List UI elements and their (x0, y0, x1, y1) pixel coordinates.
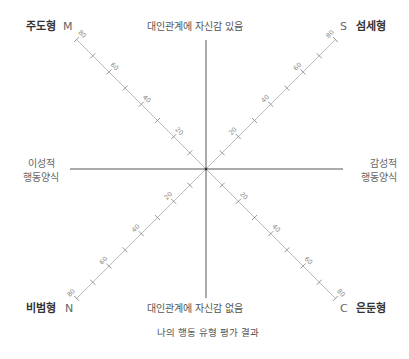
axis-label-top: 대인관계에 자신감 있음 (147, 20, 243, 33)
center-point (205, 168, 208, 171)
type-letter-top-left: M (63, 20, 73, 34)
axis-label-bottom: 대인관계에 자신감 없음 (147, 302, 243, 315)
type-name-top-left: 주도형 (26, 20, 56, 34)
axis-label-right-line1: 감성적 (349, 157, 397, 171)
axis-label-right-line2: 행동양식 (349, 171, 397, 185)
axis-label-left-line2: 행동양식 (23, 171, 59, 185)
diagram-title: 나의 행동 유형 평가 결과 (157, 326, 259, 339)
axis-label-left: 이성적 행동양식 (23, 157, 59, 185)
type-name-top-right: 섬세형 (356, 20, 386, 34)
type-letter-bottom-right: C (340, 302, 348, 316)
axis-label-right: 감성적 행동양식 (349, 157, 397, 185)
axis-label-left-line1: 이성적 (23, 157, 59, 171)
type-letter-top-right: S (340, 20, 347, 34)
type-name-bottom-left: 비범형 (26, 302, 56, 316)
type-name-bottom-right: 은둔형 (356, 302, 386, 316)
type-letter-bottom-left: N (65, 302, 73, 316)
